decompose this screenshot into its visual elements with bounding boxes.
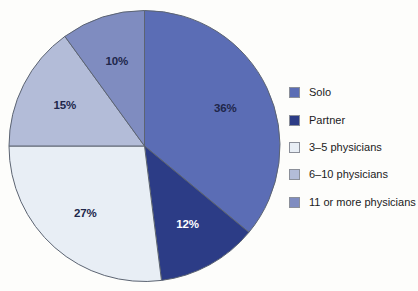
legend-item-label: 6–10 physicians: [309, 169, 388, 180]
legend-item-label: 3–5 physicians: [309, 142, 382, 153]
chart-legend: SoloPartner3–5 physicians6–10 physicians…: [289, 79, 418, 216]
legend-swatch-icon: [289, 142, 300, 153]
legend-swatch-icon: [289, 87, 300, 98]
pie-chart-area: 36%12%27%15%10%: [0, 0, 290, 291]
pie-slice-value-three-to-five: 27%: [74, 207, 97, 219]
pie-slices-group: [9, 11, 280, 282]
pie-slice-value-eleven-or-more: 10%: [106, 55, 129, 67]
pie-slice-value-solo: 36%: [214, 102, 237, 114]
legend-item-solo[interactable]: Solo: [289, 79, 418, 106]
legend-swatch-icon: [289, 115, 300, 126]
legend-swatch-icon: [289, 169, 300, 180]
legend-item-label: Partner: [309, 115, 345, 126]
legend-swatch-icon: [289, 197, 300, 208]
legend-item-label: Solo: [309, 87, 331, 98]
legend-item-six-to-ten[interactable]: 6–10 physicians: [289, 161, 418, 188]
pie-chart-svg: 36%12%27%15%10%: [0, 0, 290, 291]
pie-chart-figure: 36%12%27%15%10% SoloPartner3–5 physician…: [0, 0, 418, 291]
pie-slice-value-six-to-ten: 15%: [53, 99, 76, 111]
legend-item-three-to-five[interactable]: 3–5 physicians: [289, 134, 418, 161]
pie-slice-value-partner: 12%: [176, 218, 199, 230]
legend-item-partner[interactable]: Partner: [289, 106, 418, 133]
legend-item-eleven-or-more[interactable]: 11 or more physicians: [289, 189, 418, 216]
legend-item-label: 11 or more physicians: [309, 197, 416, 208]
